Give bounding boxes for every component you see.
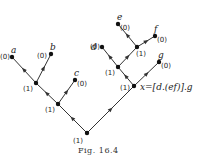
weight-ab: (1)	[23, 85, 33, 93]
weight-def: (1)	[105, 69, 115, 77]
node-def	[116, 65, 120, 69]
arrow-icon	[143, 38, 149, 44]
edges	[12, 24, 159, 133]
node-x	[132, 84, 136, 88]
label-g: g	[158, 50, 164, 60]
arrow-icon	[41, 65, 47, 71]
label-d: d	[91, 42, 97, 52]
node-root	[85, 131, 89, 135]
figure-caption: Fig. 16.4	[78, 146, 119, 155]
node-ab	[34, 81, 38, 85]
weight-ef: (1)	[136, 50, 146, 58]
tree-diagram: (0)a(0)b(1)(0)c(1)(1)(1)(0)g(1)(0)d(1)(0…	[0, 0, 213, 162]
label-e: e	[117, 12, 122, 22]
weight-c: (0)	[77, 80, 87, 88]
node-a	[10, 55, 14, 59]
node-b	[49, 52, 53, 56]
weight-e: (0)	[120, 24, 130, 32]
node-ef	[135, 45, 139, 49]
nodes: (0)a(0)b(1)(0)c(1)(1)(1)(0)g(1)(0)d(1)(0…	[0, 12, 171, 145]
weight-b: (0)	[37, 52, 47, 60]
label-a: a	[11, 45, 16, 55]
weight-a: (0)	[0, 53, 10, 61]
label-b: b	[50, 42, 56, 52]
weight-g: (0)	[161, 62, 171, 70]
weight-f: (0)	[157, 36, 167, 44]
weight-abc: (1)	[45, 106, 55, 114]
label-c: c	[74, 68, 79, 78]
node-d	[100, 45, 104, 49]
weight-x: (1)	[120, 84, 130, 92]
expression-label: x=[d.(ef)].g	[140, 82, 193, 92]
node-abc	[56, 102, 60, 106]
weight-root: (1)	[73, 137, 83, 145]
label-f: f	[153, 24, 159, 34]
